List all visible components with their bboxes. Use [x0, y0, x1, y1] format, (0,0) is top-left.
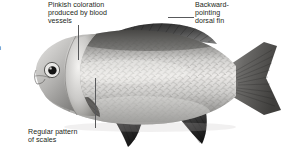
- leader-line-scale-pattern: [95, 78, 96, 128]
- callout-dorsal-fin: Backward- pointing dorsal fin: [195, 1, 257, 25]
- callout-scale-pattern: Regular pattern of scales: [28, 128, 100, 144]
- fish-eye: [44, 62, 59, 77]
- leader-line-dorsal-fin: [168, 17, 194, 18]
- callout-pinkish-coloration: Pinkish coloration produced by blood ves…: [48, 1, 126, 25]
- edge-text-fragment-upper: n: [0, 44, 6, 52]
- edge-text-fragment-lower: n: [0, 124, 4, 132]
- leader-line-pinkish-coloration: [78, 25, 79, 60]
- fish-anatomy-diagram: Pinkish coloration produced by blood ves…: [0, 0, 289, 159]
